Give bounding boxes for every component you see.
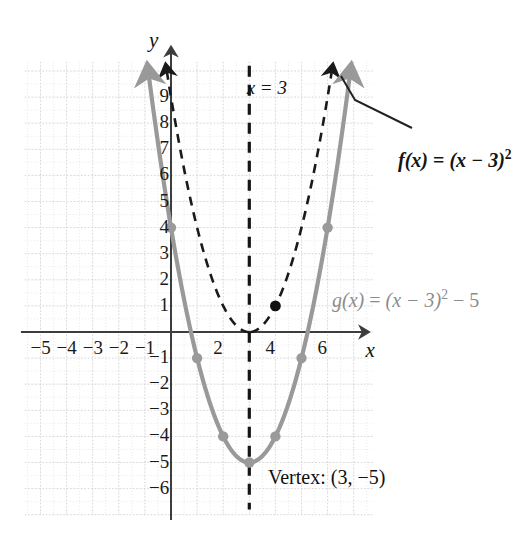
x-tick--2: −2 <box>109 337 129 359</box>
f-eq: = <box>428 149 449 171</box>
vertex-annotation: Vertex: (3, −5) <box>268 466 385 489</box>
graph-figure: −5−4−3−2−1246 987654321−1−2−3−4−5−6 x y … <box>0 0 526 545</box>
vertical-line-label: x = 3 <box>247 77 287 99</box>
y-tick-1: 1 <box>157 294 169 316</box>
x-tick-6: 6 <box>318 337 328 359</box>
vline-label-text: x = 3 <box>247 77 287 98</box>
g-exponent: 2 <box>441 287 448 302</box>
g-base: (x − 3) <box>385 289 441 311</box>
grid-minor-lines <box>25 62 373 515</box>
y-tick-8: 8 <box>157 111 169 133</box>
y-tick-9: 9 <box>157 85 169 107</box>
y-tick--6: −6 <box>149 477 169 499</box>
y-tick--5: −5 <box>149 451 169 473</box>
y-tick-5: 5 <box>157 190 169 212</box>
x-tick--3: −3 <box>83 337 103 359</box>
y-axis-label: y <box>149 28 158 53</box>
function-f-label: f(x) = (x − 3)2 <box>398 147 512 172</box>
x-tick-2: 2 <box>213 337 223 359</box>
function-g-label: g(x) = (x − 3)2 − 5 <box>332 287 479 312</box>
x-tick--4: −4 <box>57 337 77 359</box>
x-axis-label: x <box>366 338 375 363</box>
x-tick-4: 4 <box>265 337 275 359</box>
y-tick-6: 6 <box>157 163 169 185</box>
y-tick-3: 3 <box>157 242 169 264</box>
x-tick--5: −5 <box>31 337 51 359</box>
y-tick--1: −1 <box>149 346 169 368</box>
f-args: (x) <box>405 149 428 171</box>
y-tick--4: −4 <box>149 424 169 446</box>
y-tick-2: 2 <box>157 268 169 290</box>
g-eq: = <box>364 289 385 311</box>
g-name: g <box>332 289 342 311</box>
y-tick-4: 4 <box>157 216 169 238</box>
f-exponent: 2 <box>505 147 512 162</box>
y-tick--2: −2 <box>149 372 169 394</box>
g-tail: − 5 <box>448 289 479 311</box>
f-label-leader-line <box>341 76 412 128</box>
g-args: (x) <box>342 289 364 311</box>
grid-major-lines <box>25 62 373 515</box>
y-tick-7: 7 <box>157 137 169 159</box>
f-name: f <box>398 149 405 171</box>
y-tick--3: −3 <box>149 398 169 420</box>
f-base: (x − 3) <box>449 149 504 171</box>
